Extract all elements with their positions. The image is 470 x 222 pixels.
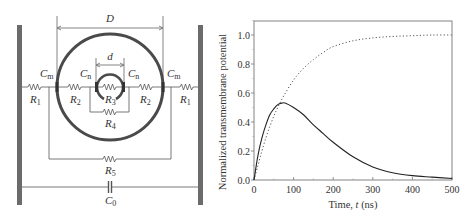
label-Cn-right: Cn [128, 67, 139, 81]
y-tick-label: 0.6 [238, 88, 251, 99]
x-tick-label: 300 [365, 184, 380, 195]
capacitor-Cm-right [162, 82, 165, 92]
y-axis-label: Normalized transmembrane potential [217, 34, 228, 190]
resistor-R4 [103, 109, 116, 115]
capacitor-Cm-left [56, 82, 59, 92]
label-R4: R4 [104, 117, 116, 131]
left-electrode [17, 25, 22, 205]
label-R2-right: R2 [139, 93, 151, 107]
x-tick-label: 400 [405, 184, 420, 195]
x-tick-label: 0 [252, 184, 257, 195]
label-R5: R5 [104, 164, 116, 178]
resistor-R1-left [28, 84, 41, 90]
resistor-R3 [103, 84, 116, 90]
y-tick-label: 0.2 [238, 146, 251, 157]
capacitor-Cn-right [122, 82, 125, 92]
label-Cm-left: Cm [40, 67, 54, 81]
main-wire [22, 84, 198, 90]
x-tick-label: 200 [326, 184, 341, 195]
label-C0: C0 [105, 194, 116, 208]
x-tick-label: 500 [445, 184, 460, 195]
chart: Normalized transmembrane potential 0.00.… [217, 21, 460, 212]
right-electrode [198, 25, 203, 205]
circuit-diagram: D d [17, 12, 203, 208]
figure: D d [0, 0, 470, 222]
resistor-R2-left [68, 84, 81, 90]
y-tick-label: 0.8 [238, 59, 251, 70]
label-R1-right: R1 [179, 93, 191, 107]
plot-frame [254, 21, 452, 180]
y-axis-ticks: 0.00.20.40.60.81.0 [238, 21, 255, 186]
label-Cm-right: Cm [167, 67, 181, 81]
series-dotted-line [254, 35, 452, 180]
capacitor-Cn-left [95, 82, 98, 92]
y-tick-label: 1.0 [238, 30, 251, 41]
c0-branch [22, 181, 198, 193]
label-d: d [107, 50, 113, 62]
x-tick-label: 100 [286, 184, 301, 195]
resistor-R2-right [139, 84, 152, 90]
x-axis-label: Time, t (ns) [329, 199, 378, 211]
label-R2-left: R2 [69, 93, 81, 107]
series-solid-line [254, 103, 452, 180]
y-tick-label: 0.4 [238, 117, 251, 128]
resistor-R1-right [180, 84, 193, 90]
label-D: D [105, 12, 114, 24]
label-R3: R3 [104, 93, 116, 107]
label-Cn-left: Cn [80, 67, 91, 81]
resistor-R5 [103, 156, 116, 162]
label-R1-left: R1 [29, 93, 41, 107]
y-tick-label: 0.0 [238, 175, 251, 186]
